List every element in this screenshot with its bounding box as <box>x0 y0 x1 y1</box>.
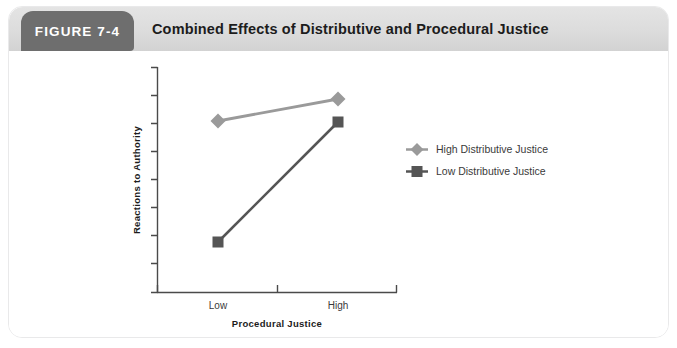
figure-header-bar: FIGURE 7-4 Combined Effects of Distribut… <box>9 7 669 51</box>
figure-number-label: FIGURE 7-4 <box>35 24 120 39</box>
series-low-point-marker <box>213 237 224 248</box>
square-marker-icon <box>412 166 423 177</box>
figure-body: Reactions to Authority Low High Procedur… <box>9 51 669 338</box>
series-low-distributive-justice <box>213 117 344 248</box>
figure-card: FIGURE 7-4 Combined Effects of Distribut… <box>8 6 669 338</box>
x-axis-title: Procedural Justice <box>232 318 322 329</box>
series-low-line <box>218 122 338 242</box>
diamond-marker-icon <box>411 143 424 156</box>
legend-label-high: High Distributive Justice <box>436 143 548 155</box>
series-high-line <box>218 99 338 121</box>
legend-item-low-distributive-justice: Low Distributive Justice <box>406 165 546 177</box>
series-low-point-marker <box>333 117 344 128</box>
y-axis <box>151 67 158 293</box>
x-tick-label-low: Low <box>209 300 228 311</box>
chart-legend: High Distributive Justice Low Distributi… <box>406 143 548 177</box>
y-axis-title: Reactions to Authority <box>131 126 142 235</box>
figure-number-tag: FIGURE 7-4 <box>21 11 134 51</box>
series-high-point-marker <box>331 92 346 107</box>
x-tick-label-high: High <box>328 300 349 311</box>
legend-item-high-distributive-justice: High Distributive Justice <box>406 143 548 156</box>
figure-title: Combined Effects of Distributive and Pro… <box>152 7 549 51</box>
legend-label-low: Low Distributive Justice <box>436 165 546 177</box>
x-axis <box>157 285 397 293</box>
line-chart: Reactions to Authority Low High Procedur… <box>9 51 669 338</box>
series-high-point-marker <box>211 114 226 129</box>
series-high-distributive-justice <box>211 92 346 129</box>
